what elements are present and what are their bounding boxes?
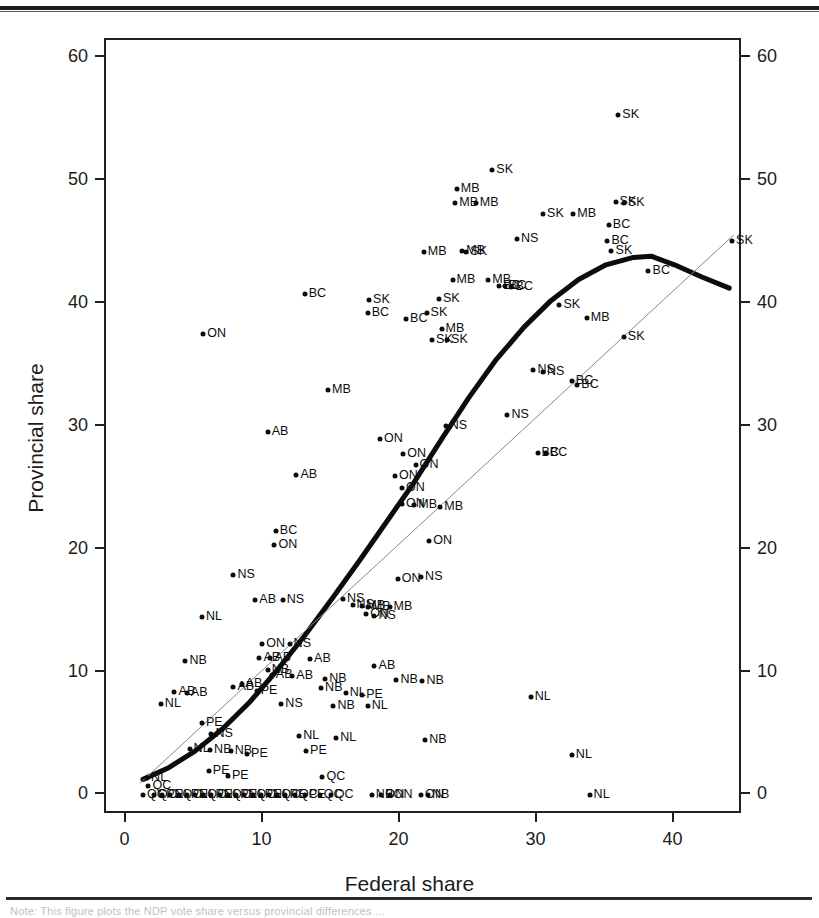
data-point xyxy=(325,388,330,393)
data-point-label: MB xyxy=(428,244,447,258)
y-tick-left xyxy=(95,55,104,57)
data-point xyxy=(490,168,495,173)
data-point xyxy=(272,542,277,547)
data-point-label: MB xyxy=(461,181,480,195)
data-point xyxy=(145,776,150,781)
data-point xyxy=(320,774,325,779)
data-point xyxy=(531,368,536,373)
data-point xyxy=(394,677,399,682)
data-point-label: NS xyxy=(287,592,305,606)
data-point xyxy=(334,735,339,740)
data-point xyxy=(268,655,273,660)
data-point xyxy=(287,642,292,647)
data-point-label: ON xyxy=(402,571,421,585)
data-point xyxy=(445,337,450,342)
data-point xyxy=(369,793,374,798)
data-point xyxy=(225,773,230,778)
y-tick-label-left: 40 xyxy=(68,292,88,313)
data-point xyxy=(297,734,302,739)
data-point xyxy=(464,250,469,255)
data-point xyxy=(234,793,239,798)
data-point-label: SK xyxy=(615,243,632,257)
data-point xyxy=(260,642,265,647)
y-tick-left xyxy=(95,178,104,180)
data-point xyxy=(343,691,348,696)
data-point-label: SK xyxy=(736,233,753,247)
data-point xyxy=(187,746,192,751)
data-point-label: SK xyxy=(628,195,645,209)
data-point xyxy=(199,720,204,725)
data-point xyxy=(399,502,404,507)
data-point-label: SK xyxy=(496,162,513,176)
y-tick-right xyxy=(741,424,750,426)
page-rule-bottom xyxy=(6,897,812,900)
data-point-label: NS xyxy=(521,231,539,245)
data-point xyxy=(253,598,258,603)
data-point xyxy=(258,793,263,798)
data-point-label: NS xyxy=(294,636,312,650)
y-tick-label-left: 60 xyxy=(68,46,88,67)
data-point xyxy=(606,223,611,228)
data-point-label: PE xyxy=(232,768,249,782)
data-point xyxy=(427,539,432,544)
data-point-label: BC xyxy=(410,311,428,325)
y-tick-right xyxy=(741,670,750,672)
data-point xyxy=(140,793,145,798)
data-point-label: AB xyxy=(237,679,254,693)
data-point-label: NB xyxy=(325,680,343,694)
data-point xyxy=(225,793,230,798)
data-point xyxy=(250,793,255,798)
data-point-label: NL xyxy=(576,747,592,761)
data-point-label: MB xyxy=(418,497,437,511)
y-tick-right xyxy=(741,178,750,180)
x-tick-label: 10 xyxy=(252,829,272,850)
data-point xyxy=(528,695,533,700)
x-tick xyxy=(398,813,400,822)
y-tick-label-left: 0 xyxy=(78,783,88,804)
data-point xyxy=(217,793,222,798)
data-point xyxy=(514,236,519,241)
data-point xyxy=(730,239,735,244)
data-point xyxy=(304,749,309,754)
data-point xyxy=(535,450,540,455)
data-point-label: NS xyxy=(237,567,255,581)
data-point-label: ON xyxy=(266,636,285,650)
data-point xyxy=(254,688,259,693)
data-point xyxy=(509,284,514,289)
x-tick-label: 0 xyxy=(120,829,130,850)
data-point xyxy=(438,504,443,509)
data-point-label: AB xyxy=(191,685,208,699)
data-point xyxy=(543,450,548,455)
data-point-label: SK xyxy=(431,305,448,319)
data-point xyxy=(395,577,400,582)
data-point-label: BC xyxy=(652,263,670,277)
data-point xyxy=(283,793,288,798)
y-tick-right xyxy=(741,301,750,303)
data-point-label: NS xyxy=(215,726,233,740)
data-point xyxy=(365,310,370,315)
data-point-label: ON xyxy=(384,431,403,445)
data-point xyxy=(208,747,213,752)
data-point-label: SK xyxy=(443,291,460,305)
data-point xyxy=(193,793,198,798)
data-point-label: PE xyxy=(261,683,278,697)
data-point-label: AB xyxy=(378,658,395,672)
y-tick-right xyxy=(741,792,750,794)
data-point xyxy=(621,335,626,340)
data-point xyxy=(360,692,365,697)
data-point xyxy=(571,212,576,217)
data-point xyxy=(420,679,425,684)
data-point-label: NB xyxy=(235,743,253,757)
data-point xyxy=(401,451,406,456)
data-point-label: NS xyxy=(285,696,303,710)
data-point xyxy=(486,277,491,282)
data-point xyxy=(453,201,458,206)
data-point xyxy=(419,793,424,798)
data-point xyxy=(280,598,285,603)
data-point-label: NL xyxy=(372,698,388,712)
data-point xyxy=(430,337,435,342)
data-point-label: NS xyxy=(450,418,468,432)
data-point xyxy=(364,611,369,616)
data-point xyxy=(473,201,478,206)
y-tick-left xyxy=(95,547,104,549)
